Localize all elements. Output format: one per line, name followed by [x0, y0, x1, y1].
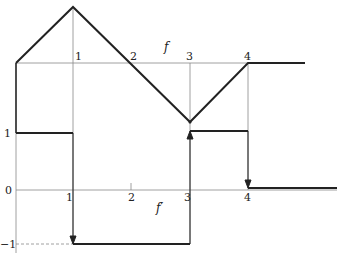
label-x2-bottom: 2 — [128, 191, 135, 204]
arrow-up-icon — [187, 131, 193, 139]
arrow-down-icon — [245, 180, 251, 188]
label-x1-bottom: 1 — [66, 191, 73, 204]
label-x3-top: 3 — [186, 50, 193, 63]
arrow-down-icon — [70, 236, 76, 244]
label-x4-bottom: 4 — [244, 191, 251, 204]
label-y0: 0 — [5, 184, 12, 197]
label-x4-top: 4 — [244, 50, 251, 63]
label-x3-bottom: 3 — [184, 191, 191, 204]
label-fprime: f′ — [155, 201, 163, 215]
derivative-diagram: 1 2 3 4 f 1 0 −1 1 2 3 4 f′ — [0, 0, 337, 253]
fprime-curve — [16, 131, 337, 244]
label-ym1: −1 — [0, 238, 16, 251]
label-f: f — [163, 40, 171, 54]
f-curve — [16, 7, 305, 122]
guide-lines — [16, 7, 337, 253]
label-y1: 1 — [4, 127, 11, 140]
label-x1-top: 1 — [75, 50, 82, 63]
label-x2-top: 2 — [130, 50, 137, 63]
f-min-point — [189, 121, 192, 124]
jump-arrows — [70, 131, 251, 244]
